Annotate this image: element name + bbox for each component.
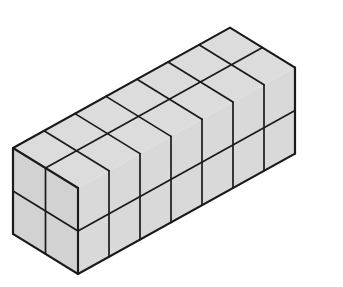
isometric-cube-figure: Isometric stack of unit cubes A solid re…: [0, 0, 343, 287]
isometric-drawing: Isometric stack of unit cubes A solid re…: [0, 0, 343, 287]
